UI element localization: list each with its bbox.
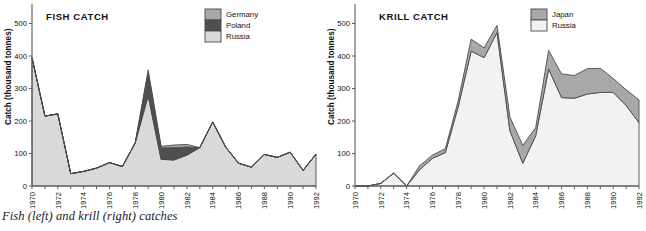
fish-chart-title: FISH CATCH <box>46 11 109 22</box>
x-tick-label-1990: 1990 <box>609 192 618 209</box>
legend-swatch-japan <box>531 9 547 20</box>
figure-caption: Fish (left) and krill (right) catches <box>2 209 178 224</box>
y-tick-label-0: 0 <box>23 182 27 191</box>
krill-chart-title: KRILL CATCH <box>379 11 449 22</box>
x-tick-label-1984: 1984 <box>208 192 217 209</box>
y-tick-label-400: 400 <box>14 52 27 61</box>
y-tick-label-300: 300 <box>337 84 350 93</box>
fish-legend: GermanyPolandRussia <box>205 9 258 42</box>
chart-panel-krill-catch: 0100200300400500197019721974197619781980… <box>323 0 646 210</box>
legend-swatch-russia <box>531 20 547 31</box>
chart-panel-fish-catch: 0100200300400500197019721974197619781980… <box>0 0 323 210</box>
x-tick-label-1984: 1984 <box>531 192 540 209</box>
x-tick-label-1982: 1982 <box>183 192 192 209</box>
x-tick-label-1972: 1972 <box>54 192 63 209</box>
series-area-russia <box>355 33 639 186</box>
x-tick-label-1982: 1982 <box>506 192 515 209</box>
series-area-russia <box>32 58 316 186</box>
x-tick-label-1970: 1970 <box>351 192 360 209</box>
x-tick-label-1978: 1978 <box>454 192 463 209</box>
y-tick-label-300: 300 <box>14 84 27 93</box>
y-tick-label-200: 200 <box>14 117 27 126</box>
x-tick-label-1974: 1974 <box>402 192 411 209</box>
y-tick-label-500: 500 <box>337 19 350 28</box>
y-tick-label-100: 100 <box>14 149 27 158</box>
legend-swatch-russia <box>205 31 221 42</box>
legend-swatch-germany <box>205 9 221 20</box>
legend-label-poland: Poland <box>226 21 250 30</box>
figure-fish-and-krill-catches: 0100200300400500197019721974197619781980… <box>0 0 646 231</box>
y-tick-label-500: 500 <box>14 19 27 28</box>
x-tick-label-1992: 1992 <box>635 192 644 209</box>
legend-swatch-poland <box>205 20 221 31</box>
x-tick-label-1976: 1976 <box>105 192 114 209</box>
x-tick-label-1980: 1980 <box>157 192 166 209</box>
fish-plot-area <box>32 58 316 186</box>
x-tick-label-1988: 1988 <box>260 192 269 209</box>
krill-y-axis-title: Catch (thousand tonnes) <box>327 28 336 125</box>
legend-label-japan: Japan <box>552 10 573 19</box>
y-tick-label-200: 200 <box>337 117 350 126</box>
y-tick-label-0: 0 <box>346 182 350 191</box>
krill-legend: JapanRussia <box>531 9 576 31</box>
x-tick-label-1970: 1970 <box>28 192 37 209</box>
fish-catch-svg: 0100200300400500197019721974197619781980… <box>0 0 323 210</box>
legend-label-russia: Russia <box>552 21 576 30</box>
y-tick-label-100: 100 <box>337 149 350 158</box>
x-tick-label-1980: 1980 <box>480 192 489 209</box>
krill-plot-area <box>355 25 639 186</box>
fish-y-axis-title: Catch (thousand tonnes) <box>4 28 13 125</box>
x-tick-label-1972: 1972 <box>377 192 386 209</box>
x-tick-label-1974: 1974 <box>79 192 88 209</box>
x-tick-label-1988: 1988 <box>583 192 592 209</box>
x-tick-label-1986: 1986 <box>557 192 566 209</box>
x-tick-label-1990: 1990 <box>286 192 295 209</box>
legend-label-russia: Russia <box>226 32 250 41</box>
x-tick-label-1978: 1978 <box>131 192 140 209</box>
x-tick-label-1986: 1986 <box>234 192 243 209</box>
x-tick-label-1992: 1992 <box>312 192 321 209</box>
krill-catch-svg: 0100200300400500197019721974197619781980… <box>323 0 646 210</box>
y-tick-label-400: 400 <box>337 52 350 61</box>
x-tick-label-1976: 1976 <box>428 192 437 209</box>
legend-label-germany: Germany <box>226 10 258 19</box>
